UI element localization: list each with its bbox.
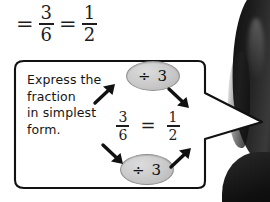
instruction-line-4: form. xyxy=(27,122,105,139)
illustration-canvas: = 3 6 = 1 2 Express the fraction in simp… xyxy=(0,0,270,202)
divide-by-3-badge-bottom: ÷ 3 xyxy=(120,154,174,185)
arrow-down-right-from-top-badge-icon xyxy=(166,86,192,110)
arrow-down-right-to-bottom-badge-icon xyxy=(100,142,126,166)
instruction-line-3: in simplest xyxy=(27,105,105,122)
numerator: 1 xyxy=(167,110,180,124)
denominator: 6 xyxy=(116,128,129,142)
denominator: 2 xyxy=(167,128,180,142)
divide-by-3-label: ÷ 3 xyxy=(132,161,162,179)
numerator: 3 xyxy=(116,110,129,124)
fraction-three-sixths: 3 6 xyxy=(116,110,129,142)
arrow-up-right-from-bottom-badge-icon xyxy=(168,146,194,170)
arrow-up-right-to-top-badge-icon xyxy=(92,82,118,106)
fraction-one-half: 1 2 xyxy=(167,110,180,142)
divide-by-3-label: ÷ 3 xyxy=(138,67,168,85)
equals-sign: = xyxy=(140,117,155,135)
bubble-equation: 3 6 = 1 2 xyxy=(102,108,194,144)
